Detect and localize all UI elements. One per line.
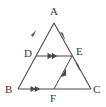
vertex-label-F: F: [50, 93, 56, 104]
vertex-label-D: D: [24, 48, 32, 59]
segment-FE-line: [54, 56, 72, 89]
vertex-label-A: A: [50, 6, 58, 17]
vertex-label-B: B: [5, 84, 12, 95]
parallel-arrow-mark-segment-FE: [61, 68, 66, 77]
parallel-double-arrow-mark-segment-DE: [48, 53, 58, 59]
geometry-figure: A B C D E F: [0, 0, 106, 107]
vertex-label-C: C: [93, 84, 100, 95]
parallel-double-arrow-mark-side-BC: [31, 86, 41, 92]
parallel-arrow-mark-side-AB: [31, 31, 35, 37]
vertex-label-E: E: [76, 46, 83, 57]
